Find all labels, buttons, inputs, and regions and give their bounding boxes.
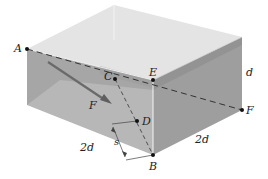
point-B xyxy=(151,153,155,157)
label-2d-right: 2d xyxy=(194,133,209,146)
point-C xyxy=(113,77,117,81)
label-B: B xyxy=(148,160,157,173)
label-s: s xyxy=(114,136,119,147)
point-A xyxy=(25,47,29,51)
label-2d-left: 2d xyxy=(79,141,94,154)
label-F-point: F xyxy=(245,104,254,117)
label-height-d: d xyxy=(246,66,253,79)
label-force-F: F xyxy=(88,99,97,112)
label-D: D xyxy=(141,115,151,128)
label-E: E xyxy=(148,66,157,79)
point-F xyxy=(240,108,244,112)
point-D xyxy=(135,119,139,123)
label-C: C xyxy=(104,70,113,83)
box-diagram: A C E D B F F d 2d 2d s xyxy=(0,0,268,179)
label-A: A xyxy=(13,42,22,55)
